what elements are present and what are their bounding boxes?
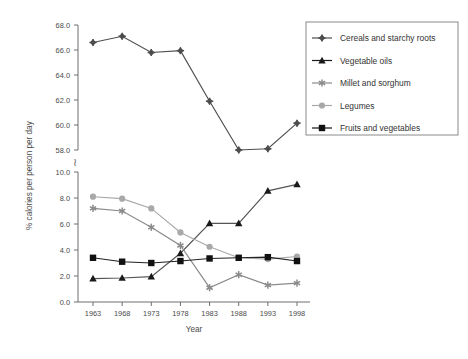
data-point-star-diamond — [177, 47, 184, 54]
x-tick-label: 1978 — [172, 309, 188, 318]
data-point-circle — [206, 244, 212, 250]
data-point-square — [119, 259, 125, 265]
data-point-star-diamond — [89, 39, 96, 46]
chart-figure: % calories per person per day 68.066.064… — [0, 0, 468, 359]
data-point-square — [90, 255, 96, 261]
data-point-star-diamond — [118, 33, 125, 40]
data-point-square — [177, 258, 183, 264]
x-tick-label: 1988 — [230, 309, 246, 318]
x-axis-title: Year — [186, 325, 203, 334]
upper-panel-axis: 68.066.064.062.060.058.0 — [56, 21, 78, 155]
data-point-circle — [319, 102, 325, 108]
data-point-square — [148, 260, 154, 266]
data-point-star-diamond — [148, 49, 155, 56]
data-point-square — [265, 254, 271, 260]
y-tick-label: 8.0 — [60, 194, 70, 203]
data-point-star-diamond — [206, 98, 213, 105]
data-point-star-diamond — [235, 147, 242, 154]
x-tick-label: 1993 — [260, 309, 276, 318]
x-tick-label: 1998 — [289, 309, 305, 318]
chart-legend: Cereals and starchy rootsVegetable oilsM… — [306, 22, 458, 135]
y-tick-label: 60.0 — [56, 121, 70, 130]
data-point-circle — [148, 205, 154, 211]
data-point-circle — [177, 229, 183, 235]
data-point-asterisk — [148, 224, 154, 231]
data-point-square — [319, 125, 325, 131]
y-tick-label: 68.0 — [56, 21, 70, 30]
y-tick-label: 4.0 — [60, 246, 70, 255]
y-tick-label: 6.0 — [60, 220, 70, 229]
y-tick-label: 58.0 — [56, 146, 70, 155]
data-point-square — [206, 255, 212, 261]
series-cereals-and-starchy-roots — [89, 33, 300, 154]
lower-panel-plot — [89, 181, 300, 292]
y-tick-label: 64.0 — [56, 71, 70, 80]
data-point-asterisk — [236, 271, 242, 278]
series-legumes — [90, 194, 300, 263]
data-point-circle — [119, 196, 125, 202]
series-fruits-and-vegetables — [90, 254, 300, 266]
data-point-square — [236, 255, 242, 261]
chart-svg: % calories per person per day 68.066.064… — [0, 0, 468, 359]
y-tick-label: 66.0 — [56, 46, 70, 55]
x-tick-label: 1983 — [201, 309, 217, 318]
legend-item-label: Millet and sorghum — [340, 78, 411, 88]
data-point-triangle — [293, 181, 300, 188]
x-tick-label: 1973 — [143, 309, 159, 318]
y-tick-label: 10.0 — [56, 168, 70, 177]
data-point-square — [294, 258, 300, 264]
y-tick-label: 62.0 — [56, 96, 70, 105]
x-tick-label: 1963 — [85, 309, 101, 318]
y-axis-title: % calories per person per day — [25, 120, 34, 230]
axis-break-icon: ≀ — [73, 156, 77, 168]
data-point-circle — [90, 194, 96, 200]
x-tick-label: 1968 — [114, 309, 130, 318]
legend-item-label: Vegetable oils — [340, 56, 392, 66]
legend-item-label: Cereals and starchy roots — [340, 33, 435, 43]
legend-item-label: Legumes — [340, 101, 374, 111]
y-tick-label: 2.0 — [60, 272, 70, 281]
upper-panel-plot — [89, 33, 300, 154]
y-tick-label: 0.0 — [60, 298, 70, 307]
legend-item-label: Fruits and vegetables — [340, 123, 420, 133]
